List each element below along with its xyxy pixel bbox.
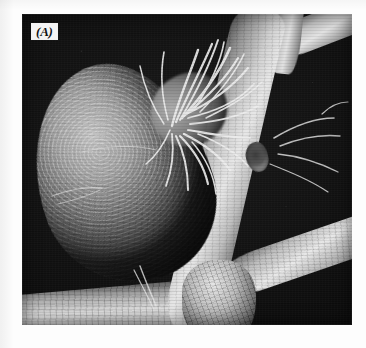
figure-page: (A) <box>0 0 366 348</box>
panel-label: (A) <box>31 23 58 40</box>
root-hairs <box>22 14 352 325</box>
micrograph-plate: (A) <box>22 14 352 325</box>
